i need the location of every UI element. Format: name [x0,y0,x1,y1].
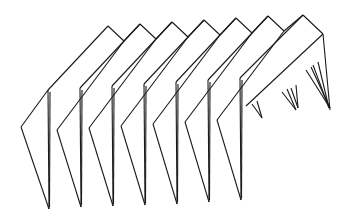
left-top-edge [21,90,48,127]
top-zigzag-down [268,16,284,31]
pleat-inner-slope [153,124,177,204]
top-zigzag-down [236,18,252,33]
pleat-front-crease-inner [114,88,115,204]
pleat-inner-slope [121,126,145,205]
pleat-top-diagonal [208,16,268,80]
pleat-front-crease-inner [82,90,83,205]
left-bottom-edge [21,127,49,209]
pleat-front-crease [176,82,177,204]
pleat-front-crease-inner [178,84,179,202]
pleat-front-crease [80,88,81,207]
pleat-front-crease [144,84,145,205]
pleat-top-diagonal [176,18,236,82]
right-top-edge [303,15,323,34]
top-zigzag-down [108,26,124,41]
pleat-top-diagonal [112,22,172,86]
pleat-top-diagonal [48,26,108,90]
pleat-inner-slope [185,122,209,202]
pleat-front-crease-inner [146,86,147,203]
pleat-top-diagonal [80,24,140,88]
top-zigzag-down [172,22,188,37]
folded-surface-figure [0,0,349,223]
back-spike-side [257,101,262,118]
pleat-front-crease-inner [210,82,211,200]
pleat-inner-slope [217,120,241,200]
pleat-front-crease-inner [242,80,243,198]
pleat-front-crease-inner [50,92,51,207]
top-zigzag-down [140,24,156,39]
pleat-inner-slope [57,130,81,207]
pleat-inner-slope [89,128,113,206]
pleat-top-diagonal [144,20,204,84]
pleat-front-crease [48,90,49,209]
pleat-front-crease [208,80,209,202]
pleat-top-diagonal [240,15,303,78]
folded-surface-drawing [0,0,349,223]
pleat-front-crease [112,86,113,206]
pleat-front-crease [240,78,241,200]
top-zigzag-down [204,20,220,35]
